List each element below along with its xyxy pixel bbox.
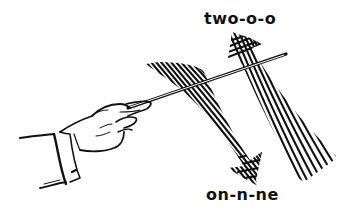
conducting-illustration xyxy=(0,0,356,216)
upbeat-arrow-icon xyxy=(226,30,338,184)
upbeat-label: two-o-o xyxy=(204,11,276,27)
downbeat-label: on-n-ne xyxy=(206,187,279,203)
conductor-hand-icon xyxy=(20,101,151,188)
